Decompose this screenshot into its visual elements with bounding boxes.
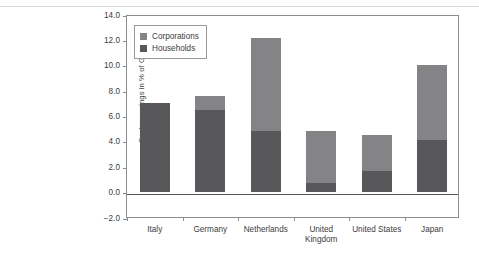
chart-figure: Sector savings in % of GDP 14.012.010.08… <box>0 0 479 256</box>
y-tick-label: 14.0 <box>104 11 120 20</box>
x-tick-mark <box>127 217 128 221</box>
legend-item-households: Households <box>140 42 199 54</box>
bar-stack <box>306 131 336 192</box>
bar-segment-households <box>140 103 170 192</box>
plot-area: Sector savings in % of GDP 14.012.010.08… <box>126 15 459 218</box>
bar-segment-households <box>195 110 225 191</box>
y-tick-label: 12.0 <box>104 36 120 45</box>
y-tick-label: 6.0 <box>109 112 120 121</box>
y-tick-mark <box>123 168 127 169</box>
bar-segment-households <box>306 183 336 192</box>
x-tick-label-line: Japan <box>393 225 471 235</box>
chart-legend: Corporations Households <box>134 25 207 59</box>
bar-segment-corporations <box>306 131 336 183</box>
y-tick-label: 4.0 <box>109 137 120 146</box>
bar-segment-corporations <box>251 38 281 131</box>
legend-label-corporations: Corporations <box>152 32 199 41</box>
y-tick-label: 8.0 <box>109 87 120 96</box>
bar-stack <box>417 65 447 192</box>
bar-segment-households <box>417 140 447 192</box>
x-tick-mark <box>349 217 350 221</box>
y-tick-mark <box>123 92 127 93</box>
y-tick-label: −2.0 <box>104 214 120 223</box>
y-tick-mark <box>123 142 127 143</box>
bar-segment-households <box>362 171 392 192</box>
y-tick-mark <box>123 41 127 42</box>
y-tick-mark <box>123 66 127 67</box>
y-tick-label: 0.0 <box>109 188 120 197</box>
zero-line <box>127 194 458 195</box>
x-tick-mark <box>238 217 239 221</box>
y-tick-mark <box>123 16 127 17</box>
y-tick-label: 2.0 <box>109 163 120 172</box>
bar-segment-corporations <box>362 135 392 171</box>
bar-stack <box>140 103 170 192</box>
y-tick-label: 10.0 <box>104 61 120 70</box>
bar-segment-corporations <box>417 65 447 140</box>
y-tick-mark <box>123 117 127 118</box>
legend-item-corporations: Corporations <box>140 30 199 42</box>
x-tick-mark <box>405 217 406 221</box>
bar-stack <box>195 96 225 191</box>
legend-swatch-corporations <box>140 33 147 40</box>
legend-label-households: Households <box>152 44 195 53</box>
bar-stack <box>362 135 392 192</box>
x-tick-label: Japan <box>393 225 471 235</box>
bar-segment-households <box>251 131 281 192</box>
legend-swatch-households <box>140 45 147 52</box>
bar-segment-corporations <box>195 96 225 110</box>
bar-stack <box>251 38 281 192</box>
x-tick-mark <box>183 217 184 221</box>
x-tick-label-line: Kingdom <box>282 235 360 245</box>
x-tick-mark <box>294 217 295 221</box>
